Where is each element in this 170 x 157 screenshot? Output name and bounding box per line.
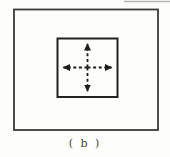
figure-caption: ( b ) <box>0 136 170 152</box>
figure-b-diagram: ( b ) <box>0 0 170 157</box>
diagram-canvas <box>0 0 170 157</box>
outer-rectangle <box>14 10 158 131</box>
